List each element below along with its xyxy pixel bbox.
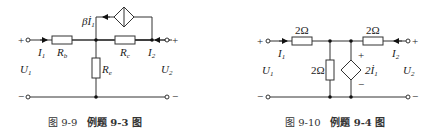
resistor-rb xyxy=(52,36,72,44)
resistor-rc xyxy=(115,36,135,44)
in-minus-sign: − xyxy=(18,90,24,102)
label-i1: I1 xyxy=(37,46,45,60)
figure-9-10: + − + − 2Ω 2Ω 2Ω I1 I2 U1 U2 + − 2İ1 xyxy=(257,24,418,102)
label-u2: U2 xyxy=(403,64,415,78)
resistor-left-2ohm xyxy=(292,37,312,45)
resistor-re xyxy=(92,58,100,78)
terminal-in-plus xyxy=(26,38,30,42)
label-i2: I2 xyxy=(391,47,400,61)
label-r-left: 2Ω xyxy=(295,24,309,36)
caption-fig-9-10: 图 9-10 例题 9-4 图 xyxy=(285,114,385,129)
terminal-out-plus xyxy=(406,39,410,43)
terminal-in-plus xyxy=(266,39,270,43)
terminal-out-plus xyxy=(165,38,169,42)
out-plus-sign: + xyxy=(412,35,418,47)
vsource-plus-sign: + xyxy=(358,49,364,61)
label-u1: U1 xyxy=(20,63,31,77)
dependent-voltage-source xyxy=(341,60,361,80)
label-r-right: 2Ω xyxy=(366,24,380,36)
label-2i1: 2İ1 xyxy=(365,64,378,78)
terminal-in-minus xyxy=(26,95,30,99)
out-plus-sign: + xyxy=(172,34,178,46)
caption-number: 图 9-9 xyxy=(48,117,77,128)
label-beta-i1: βİ1 xyxy=(81,15,95,29)
label-u1: U1 xyxy=(262,64,273,78)
label-rc: Rc xyxy=(119,46,131,60)
terminal-in-minus xyxy=(266,95,270,99)
label-re: Re xyxy=(101,63,112,77)
out-minus-sign: − xyxy=(412,90,418,102)
caption-title: 例题 9-3 图 xyxy=(87,117,142,128)
label-i1: I1 xyxy=(277,47,285,61)
in-minus-sign: − xyxy=(257,90,263,102)
caption-fig-9-9: 图 9-9 例题 9-3 图 xyxy=(48,114,142,129)
in-plus-sign: + xyxy=(257,35,263,47)
label-u2: U2 xyxy=(161,63,173,77)
caption-number: 图 9-10 xyxy=(285,117,321,128)
terminal-out-minus xyxy=(406,95,410,99)
figure-9-9: + − + − I1 Rb Rc I2 Re βİ1 U1 U2 xyxy=(18,7,178,102)
label-i2: I2 xyxy=(147,46,156,60)
label-r-shunt: 2Ω xyxy=(311,64,325,76)
vsource-minus-sign: − xyxy=(358,78,364,90)
resistor-shunt-2ohm xyxy=(326,60,334,80)
label-rb: Rb xyxy=(56,46,68,60)
resistor-right-2ohm xyxy=(363,37,383,45)
in-plus-sign: + xyxy=(18,34,24,46)
caption-title: 例题 9-4 图 xyxy=(330,117,385,128)
terminal-out-minus xyxy=(165,95,169,99)
out-minus-sign: − xyxy=(172,90,178,102)
